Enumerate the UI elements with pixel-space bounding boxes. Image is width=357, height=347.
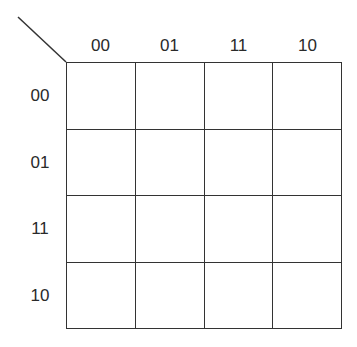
kmap-cell: [136, 196, 205, 263]
row-label-10: 10: [20, 286, 60, 306]
column-label-10: 10: [273, 36, 342, 56]
karnaugh-map: 00 01 11 10 00 01 11 10: [0, 0, 357, 347]
column-label-00: 00: [66, 36, 135, 56]
kmap-cell: [273, 263, 342, 330]
kmap-cell: [136, 263, 205, 330]
kmap-cell: [136, 63, 205, 130]
kmap-cell: [67, 63, 136, 130]
row-label-01: 01: [20, 153, 60, 173]
kmap-cell: [205, 130, 274, 197]
row-label-11: 11: [20, 219, 60, 239]
column-label-01: 01: [135, 36, 204, 56]
kmap-cell: [205, 263, 274, 330]
kmap-grid: [66, 62, 342, 329]
kmap-cell: [273, 196, 342, 263]
kmap-cell: [136, 130, 205, 197]
row-label-00: 00: [20, 86, 60, 106]
kmap-cell: [273, 130, 342, 197]
kmap-cell: [67, 196, 136, 263]
kmap-cell: [205, 63, 274, 130]
column-label-11: 11: [204, 36, 273, 56]
kmap-cell: [67, 263, 136, 330]
kmap-cell: [205, 196, 274, 263]
kmap-cell: [273, 63, 342, 130]
kmap-cell: [67, 130, 136, 197]
